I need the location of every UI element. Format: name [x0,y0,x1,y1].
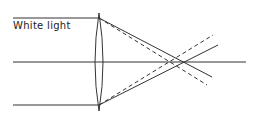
lens-diagram [0,0,258,118]
refracted-ray-bottom-solid [99,45,218,105]
refracted-ray-top-dashed [99,18,207,85]
refracted-ray-bottom-dashed [99,35,213,105]
refracted-ray-top-solid [99,18,212,77]
